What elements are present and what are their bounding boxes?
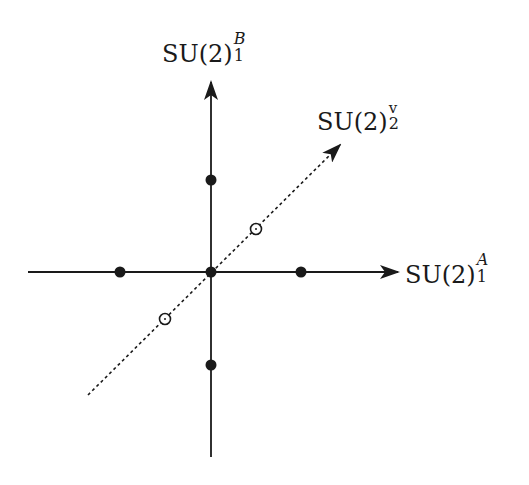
open-point-center-diag-lower	[164, 318, 166, 320]
horizontal-axis-label: SU(2)A1	[405, 259, 492, 287]
vertical-axis-label-sub: 1	[234, 48, 244, 64]
horizontal-axis-label-sub: 1	[477, 269, 487, 285]
horizontal-axis-label-sup: A	[477, 252, 489, 268]
filled-point-origin	[206, 267, 217, 278]
filled-point-bottom	[206, 360, 217, 371]
vertical-axis-label: SU(2)B1	[162, 38, 249, 66]
open-point-center-diag-upper	[255, 228, 257, 230]
vertical-axis-label-sup: B	[234, 31, 246, 47]
vertical-axis-label-base: SU(2)	[162, 40, 233, 68]
diagonal-axis-label-base: SU(2)	[317, 108, 388, 136]
filled-point-top	[206, 175, 217, 186]
diagonal-axis-label: SU(2)v2	[317, 106, 404, 134]
filled-point-right	[296, 267, 307, 278]
lattice-diagram	[0, 0, 529, 485]
filled-point-left	[115, 267, 126, 278]
horizontal-axis-label-base: SU(2)	[405, 261, 476, 289]
diagonal-axis-label-sub: 2	[389, 116, 399, 132]
